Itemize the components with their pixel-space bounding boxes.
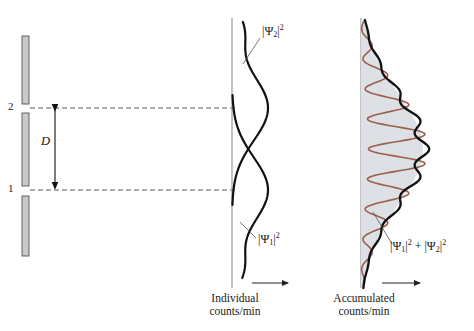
barrier-segment-2 (22, 113, 29, 186)
accumulated-caption-line1: Accumulated (333, 292, 394, 304)
psi1-label-text: |Ψ1|2 (258, 232, 280, 246)
sum-label-text: |Ψ1|2 + |Ψ2|2 (390, 239, 446, 253)
individual-caption-line1: Individual (211, 292, 258, 304)
psi2-label: |Ψ2|2 (262, 23, 284, 39)
individual-caption: Individual counts/min (191, 292, 279, 318)
slit-label-2: 2 (8, 100, 14, 112)
psi2-curve (232, 22, 268, 205)
sum-label: |Ψ1|2 + |Ψ2|2 (390, 238, 446, 254)
psi1-curve (233, 95, 268, 278)
slit-separation-label: D (41, 134, 50, 149)
accumulated-caption: Accumulated counts/min (316, 292, 412, 318)
psi1-label: |Ψ1|2 (258, 231, 280, 247)
accumulated-caption-line2: counts/min (316, 305, 412, 318)
individual-caption-line2: counts/min (191, 305, 279, 318)
barrier-segment-1 (22, 36, 29, 104)
figure-canvas (0, 0, 474, 331)
double-slit-figure (0, 0, 474, 331)
barrier-segment-3 (22, 196, 29, 256)
psi2-label-text: |Ψ2|2 (262, 24, 284, 38)
slit-label-1: 1 (8, 182, 14, 194)
